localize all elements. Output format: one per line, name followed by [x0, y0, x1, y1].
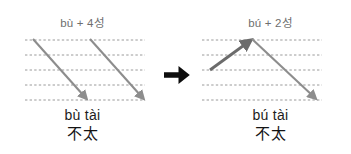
pinyin-after: bú tài	[190, 107, 351, 124]
falling-tone-contour-2	[90, 39, 141, 96]
falling-tone-contour	[252, 39, 313, 96]
hanzi-after: 不太	[190, 124, 351, 143]
pinyin-before: bù tài	[0, 107, 165, 124]
tone-staff-before	[0, 34, 165, 108]
tone-staff-after	[190, 34, 351, 108]
tone-label-before: bù + 4성	[0, 14, 165, 30]
readings-before: bù tài 不太	[0, 107, 165, 143]
tone-label-after: bú + 2성	[190, 14, 351, 30]
panel-before-sandhi: bù + 4성	[0, 0, 165, 154]
readings-after: bú tài 不太	[190, 107, 351, 143]
hanzi-before: 不太	[0, 124, 165, 143]
rising-tone-contour	[210, 43, 247, 70]
panel-after-sandhi: bú + 2성	[190, 0, 351, 154]
right-arrow-icon	[163, 62, 191, 88]
falling-tone-contour-1	[33, 39, 84, 96]
tone-sandhi-figure: bù + 4성	[0, 0, 351, 154]
